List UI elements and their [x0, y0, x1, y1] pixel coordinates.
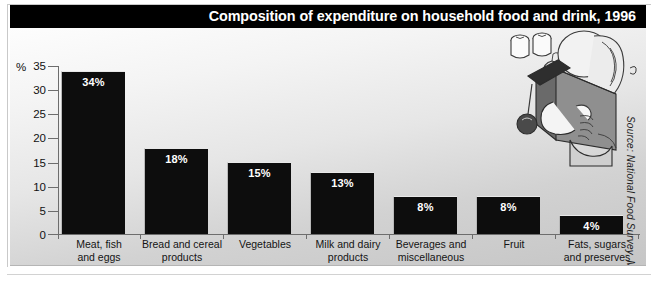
category-label-line1: Bread and cereal: [141, 238, 223, 251]
bar-value-label: 8%: [394, 201, 457, 213]
category-label-beverages-and-miscellaneous: Beverages and miscellaneous: [390, 238, 472, 263]
bar-vegetables: 15%: [227, 162, 291, 234]
category-label-line1: Milk and dairy: [307, 238, 389, 251]
shopper-carrying-grocery-bag-cartoon-icon: [498, 28, 646, 168]
chart-title: Composition of expenditure on household …: [209, 8, 636, 25]
y-axis-unit-symbol: %: [16, 61, 26, 73]
y-tick-label-5: 5: [10, 206, 46, 217]
y-tick-mark-30: [48, 90, 58, 91]
category-label-line1: Vegetables: [224, 238, 306, 251]
category-label-vegetables: Vegetables: [224, 238, 306, 251]
category-label-meat-fish-and-eggs: Meat, fish and eggs: [58, 238, 140, 263]
bar-milk-and-dairy-products: 13%: [310, 172, 374, 234]
y-tick-mark-15: [48, 163, 58, 164]
chart-title-bar: Composition of expenditure on household …: [10, 5, 646, 28]
bar-beverages-and-miscellaneous: 8%: [393, 196, 457, 234]
category-label-line2: products: [141, 251, 223, 264]
category-label-line1: Beverages and: [390, 238, 472, 251]
bar-meat-fish-and-eggs: 34%: [61, 71, 125, 234]
bar-value-label: 15%: [228, 167, 291, 179]
category-label-bread-and-cereal-products: Bread and cereal products: [141, 238, 223, 263]
figure-bottom-rule: [7, 274, 651, 275]
bar-value-label: 34%: [62, 76, 125, 88]
category-label-line2: and eggs: [58, 251, 140, 264]
bar-value-label: 18%: [145, 153, 208, 165]
y-tick-mark-20: [48, 138, 58, 139]
category-label-line2: products: [307, 251, 389, 264]
y-tick-mark-25: [48, 114, 58, 115]
bar-fruit: 8%: [476, 196, 540, 234]
y-tick-mark-35: [48, 66, 58, 67]
category-label-line2: miscellaneous: [390, 251, 472, 264]
bar-fats-sugars-and-preserves: 4%: [559, 215, 623, 234]
bar-value-label: 13%: [311, 177, 374, 189]
y-tick-label-30: 30: [10, 85, 46, 96]
category-label-milk-and-dairy-products: Milk and dairy products: [307, 238, 389, 263]
source-note: Source: National Food Survey, MAFF 1997: [625, 116, 636, 266]
bar-bread-and-cereal-products: 18%: [144, 148, 208, 234]
chart-figure: Composition of expenditure on household …: [0, 0, 658, 281]
chart-panel: 35 30 25 20 15 10 5 0 %: [10, 28, 646, 266]
y-tick-mark-10: [48, 187, 58, 188]
y-axis-line: [58, 66, 59, 235]
category-label-line1: Meat, fish: [58, 238, 140, 251]
y-tick-label-10: 10: [10, 182, 46, 193]
bar-value-label: 8%: [477, 201, 540, 213]
category-label-line1: Fruit: [473, 238, 555, 251]
y-tick-label-25: 25: [10, 109, 46, 120]
bar-value-label: 4%: [560, 220, 623, 232]
category-label-fruit: Fruit: [473, 238, 555, 251]
x-axis-category-labels: Meat, fish and eggs Bread and cereal pro…: [10, 235, 646, 266]
y-tick-label-15: 15: [10, 158, 46, 169]
y-tick-label-20: 20: [10, 133, 46, 144]
y-tick-mark-5: [48, 211, 58, 212]
